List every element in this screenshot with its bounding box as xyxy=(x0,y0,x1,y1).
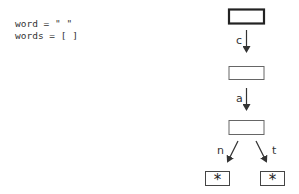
edge-t-arrow xyxy=(256,141,266,161)
trie-node-a xyxy=(229,121,264,135)
trie-diagram: c a n t * * xyxy=(0,0,299,194)
edge-label-a: a xyxy=(236,92,243,105)
edge-label-c: c xyxy=(236,34,242,47)
edge-label-t: t xyxy=(272,144,277,157)
edge-label-n: n xyxy=(217,144,224,157)
trie-root-node xyxy=(229,10,264,24)
trie-node-c xyxy=(229,67,264,80)
edge-n-arrow xyxy=(228,141,238,161)
leaf-t-end-marker: * xyxy=(269,171,277,189)
leaf-n-end-marker: * xyxy=(214,171,222,189)
